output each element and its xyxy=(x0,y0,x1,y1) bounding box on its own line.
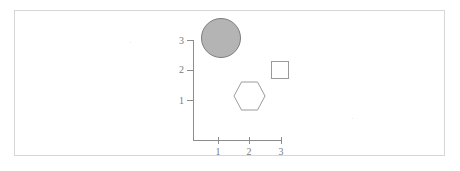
circle-marker xyxy=(201,18,241,58)
x-axis-line xyxy=(193,140,282,141)
y-axis-tick-1 xyxy=(187,100,194,101)
y-axis-tick-3 xyxy=(187,40,194,41)
y-axis-label-1: 1 xyxy=(172,96,184,106)
x-axis-label-3: 3 xyxy=(275,147,287,157)
plot-area: 3 2 1 1 2 3 xyxy=(0,0,460,171)
x-axis-label-1: 1 xyxy=(212,147,224,157)
y-axis-line xyxy=(193,40,194,141)
square-marker xyxy=(271,61,289,79)
figure-panel: 3 2 1 1 2 3 xyxy=(0,0,460,171)
y-axis-label-2: 2 xyxy=(172,65,184,75)
y-axis-label-3: 3 xyxy=(172,36,184,46)
y-axis-tick-2 xyxy=(187,70,194,71)
x-axis-tick-1 xyxy=(218,137,219,144)
x-axis-tick-2 xyxy=(249,137,250,144)
x-axis-tick-3 xyxy=(281,137,282,144)
x-axis-label-2: 2 xyxy=(243,147,255,157)
hexagon-marker xyxy=(233,81,266,111)
